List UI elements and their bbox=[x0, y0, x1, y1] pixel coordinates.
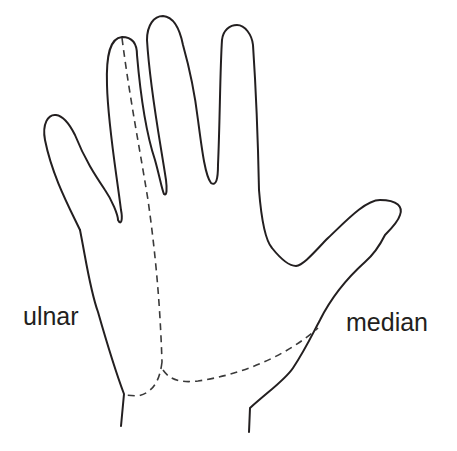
label-ulnar: ulnar bbox=[23, 304, 79, 329]
hand-ulnar-border bbox=[80, 230, 124, 426]
hand-outline bbox=[44, 16, 401, 432]
label-median: median bbox=[346, 310, 428, 335]
nerve-boundary-median-palm bbox=[163, 328, 318, 382]
nerve-boundary-ulnar-wrist bbox=[124, 362, 162, 396]
nerve-boundary-ring-finger bbox=[122, 38, 162, 362]
hand-diagram bbox=[0, 0, 457, 451]
